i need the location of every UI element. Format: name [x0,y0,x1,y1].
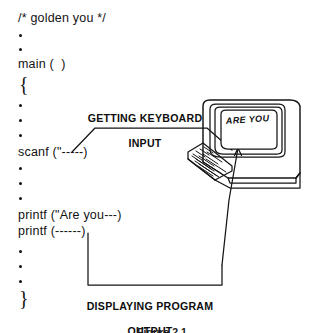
monitor-screen [221,110,277,149]
code-line-main: main ( ) [18,58,66,71]
monitor-bezel-mid [215,107,282,154]
code-line-printf-are-you: printf ("Are you---) [18,209,122,222]
callout-input-line1: GETTING KEYBOARD [72,112,218,124]
code-ellipsis-dot [19,104,22,107]
callout-input-line2: INPUT [72,137,218,149]
monitor-side-panel [296,173,300,178]
code-ellipsis-dot [19,197,22,200]
code-ellipsis-dot [19,134,22,137]
leader-output [88,233,222,285]
code-ellipsis-dot [19,48,22,51]
code-ellipsis-dot [19,182,22,185]
screen-text: ARE YOU [224,113,269,126]
computer-base-line [215,173,300,188]
code-ellipsis-dot [19,167,22,170]
callout-getting-keyboard-input: GETTING KEYBOARD INPUT [72,100,218,161]
leader-output-arrow [222,148,242,265]
monitor-bezel-outer [210,104,285,157]
monitor-front-lip [228,178,296,183]
code-line-comment: /* golden you */ [18,12,106,25]
code-open-brace: { [19,74,29,94]
keyboard-front-edge [188,159,215,180]
code-ellipsis-dot [19,280,22,283]
code-line-printf-blank: printf (------) [18,225,86,238]
figure-caption: Figure 2.1 [0,326,324,333]
code-ellipsis-dot [19,34,22,37]
line-art-overlay: ARE YOU [0,0,324,333]
callout-output-line1: DISPLAYING PROGRAM [68,300,232,312]
code-close-brace: } [19,288,29,308]
code-ellipsis-dot [19,250,22,253]
code-ellipsis-dot [19,119,22,122]
figure-container: /* golden you */ main ( ) { scanf ("----… [0,0,324,333]
code-ellipsis-dot [19,265,22,268]
